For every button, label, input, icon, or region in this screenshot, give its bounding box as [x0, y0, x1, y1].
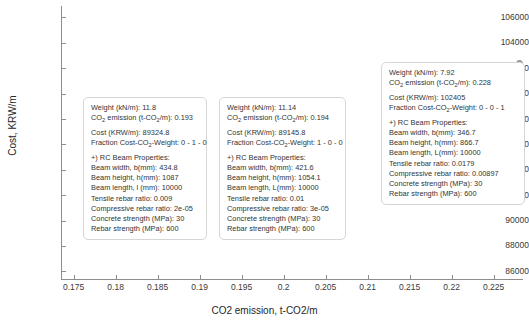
- tooltip-co2-emission: CO2 emission (t-CO2/m): 0.193: [91, 113, 200, 125]
- y-tick: [61, 271, 66, 272]
- y-tick-label: 86000: [475, 267, 529, 276]
- y-tick: [61, 221, 66, 222]
- x-tick: [200, 275, 201, 280]
- x-tick: [410, 275, 411, 280]
- tooltip-beam-length: Beam length, L(mm): 10000: [389, 148, 518, 158]
- tooltip-properties-header: +) RC Beam Properties:: [91, 153, 200, 163]
- chart-canvas: 8600088000900009200094000960009800010000…: [0, 0, 529, 329]
- y-tick: [61, 170, 66, 171]
- tooltip-co2-emission: CO2 emission (t-CO2/m): 0.194: [227, 113, 339, 125]
- x-axis-label: CO2 emission, t-CO2/m: [0, 305, 529, 316]
- y-tick: [61, 195, 66, 196]
- x-tick-label: 0.18: [96, 283, 136, 292]
- tooltip-fraction: Fraction Cost-CO2-Weight: 0 - 0 - 1: [389, 103, 518, 115]
- x-tick: [326, 275, 327, 280]
- y-tick: [61, 17, 66, 18]
- y-tick-label: 106000: [475, 13, 529, 22]
- x-tick: [284, 275, 285, 280]
- tooltip-tensile-rebar-ratio: Tensile rebar ratio: 0.009: [91, 194, 200, 204]
- datapoint-tooltip-1[interactable]: Weight (kN/m): 11.8 CO2 emission (t-CO2/…: [83, 97, 207, 240]
- tooltip-cost: Cost (KRW/m): 102405: [389, 93, 518, 103]
- tooltip-properties-header: +) RC Beam Properties:: [227, 153, 339, 163]
- tooltip-rebar-strength: Rebar strength (MPa): 600: [389, 189, 518, 199]
- y-tick: [61, 94, 66, 95]
- x-tick-label: 0.215: [390, 283, 430, 292]
- x-tick-label: 0.185: [138, 283, 178, 292]
- tooltip-concrete-strength: Concrete strength (MPa): 30: [227, 214, 339, 224]
- y-axis-line: [61, 6, 62, 279]
- tooltip-cost: Cost (KRW/m): 89145.8: [227, 128, 339, 138]
- x-tick: [158, 275, 159, 280]
- tooltip-compressive-rebar-ratio: Compressive rebar ratio: 0.00897: [389, 169, 518, 179]
- tooltip-beam-height: Beam height, h(mm): 866.7: [389, 138, 518, 148]
- tooltip-beam-length: Beam length, L(mm): 10000: [227, 183, 339, 193]
- tooltip-rebar-strength: Rebar strength (MPa): 600: [91, 224, 200, 234]
- tooltip-beam-width: Beam width, b(mm): 434.8: [91, 163, 200, 173]
- y-tick: [61, 119, 66, 120]
- x-tick: [116, 275, 117, 280]
- y-tick: [61, 246, 66, 247]
- tooltip-tensile-rebar-ratio: Tensile rebar ratio: 0.01: [227, 194, 339, 204]
- y-tick: [61, 144, 66, 145]
- tooltip-co2-emission: CO2 emission (t-CO2/m): 0.228: [389, 78, 518, 90]
- x-tick-label: 0.2: [264, 283, 304, 292]
- x-tick-label: 0.225: [474, 283, 514, 292]
- tooltip-weight: Weight (kN/m): 11.14: [227, 103, 339, 113]
- x-tick-label: 0.19: [180, 283, 220, 292]
- x-tick: [494, 275, 495, 280]
- x-tick: [242, 275, 243, 280]
- tooltip-tensile-rebar-ratio: Tensile rebar ratio: 0.0179: [389, 159, 518, 169]
- x-tick: [74, 275, 75, 280]
- x-tick-label: 0.175: [54, 283, 94, 292]
- y-tick: [61, 68, 66, 69]
- tooltip-beam-width: Beam width, b(mm): 421.6: [227, 163, 339, 173]
- tooltip-rebar-strength: Rebar strength (MPa): 600: [227, 224, 339, 234]
- tooltip-cost: Cost (KRW/m): 89324.8: [91, 128, 200, 138]
- tooltip-compressive-rebar-ratio: Compressive rebar ratio: 3e-05: [227, 204, 339, 214]
- tooltip-fraction: Fraction Cost-CO2-Weight: 1 - 0 - 0: [227, 138, 339, 150]
- datapoint-tooltip-2[interactable]: Weight (kN/m): 11.14 CO2 emission (t-CO2…: [219, 97, 346, 240]
- y-axis-label: Cost, KRW/m: [7, 66, 18, 186]
- tooltip-concrete-strength: Concrete strength (MPa): 30: [389, 179, 518, 189]
- tooltip-beam-height: Beam height, h(mm): 1087: [91, 173, 200, 183]
- tooltip-fraction: Fraction Cost-CO2-Weight: 0 - 1 - 0: [91, 138, 200, 150]
- tooltip-weight: Weight (kN/m): 7.92: [389, 68, 518, 78]
- tooltip-compressive-rebar-ratio: Compressive rebar ratio: 2e-05: [91, 204, 200, 214]
- x-tick: [368, 275, 369, 280]
- x-axis-line: [61, 279, 523, 280]
- x-tick-label: 0.21: [348, 283, 388, 292]
- tooltip-beam-height: Beam height, h(mm): 1054.1: [227, 173, 339, 183]
- tooltip-weight: Weight (kN/m): 11.8: [91, 103, 200, 113]
- x-tick: [452, 275, 453, 280]
- tooltip-concrete-strength: Concrete strength (MPa): 30: [91, 214, 200, 224]
- y-tick-label: 104000: [475, 38, 529, 47]
- y-tick-label: 88000: [475, 241, 529, 250]
- y-tick-label: 90000: [475, 216, 529, 225]
- datapoint-tooltip-3[interactable]: Weight (kN/m): 7.92 CO2 emission (t-CO2/…: [381, 62, 525, 205]
- x-tick-label: 0.205: [306, 283, 346, 292]
- tooltip-properties-header: +) RC Beam Properties:: [389, 118, 518, 128]
- tooltip-beam-width: Beam width, b(mm): 346.7: [389, 128, 518, 138]
- x-tick-label: 0.195: [222, 283, 262, 292]
- y-tick: [61, 43, 66, 44]
- x-tick-label: 0.22: [432, 283, 472, 292]
- tooltip-beam-length: Beam length, l (mm): 10000: [91, 183, 200, 193]
